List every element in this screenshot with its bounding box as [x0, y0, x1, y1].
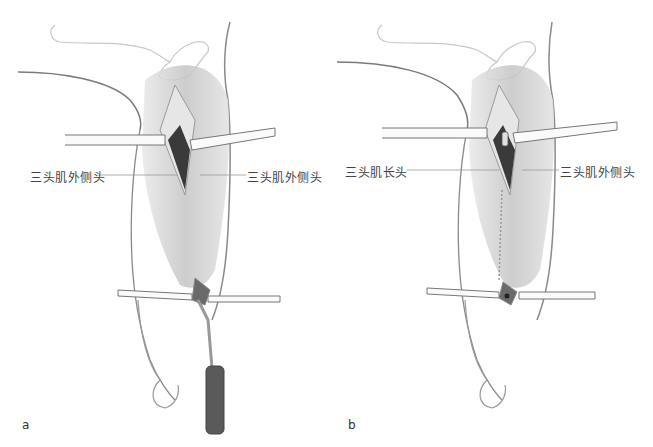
- label-long-head: 三头肌长头: [345, 163, 408, 180]
- back-outline: [18, 72, 141, 130]
- nerve-cross-section: [505, 294, 510, 299]
- lower-retractor-left: [118, 290, 192, 300]
- elbow-outline: [465, 300, 505, 408]
- label-lateral-head: 三头肌外侧头: [560, 163, 635, 180]
- lower-retractor-right: [208, 296, 280, 302]
- upper-retractor-left: [65, 135, 165, 145]
- panel-letter-a: a: [22, 418, 29, 432]
- lower-retractor-right: [519, 292, 595, 299]
- elevator-shaft: [198, 300, 212, 368]
- radial-nerve: [502, 132, 508, 146]
- panel-a: 三头肌外侧头 三头肌外侧头 a: [0, 0, 326, 447]
- label-lateral-head-left: 三头肌外侧头: [30, 168, 105, 185]
- panel-b: 三头肌长头 三头肌外侧头 b: [327, 0, 653, 447]
- arm-illustration-a: [0, 0, 326, 447]
- arm-illustration-b: [327, 0, 653, 447]
- elevator-handle: [206, 366, 224, 434]
- panel-letter-b: b: [348, 418, 356, 432]
- elbow-outline: [138, 300, 178, 408]
- lower-retractor-left: [427, 288, 499, 298]
- back-outline: [337, 62, 468, 130]
- upper-retractor-left: [382, 128, 487, 138]
- label-lateral-head-right: 三头肌外侧头: [247, 168, 322, 185]
